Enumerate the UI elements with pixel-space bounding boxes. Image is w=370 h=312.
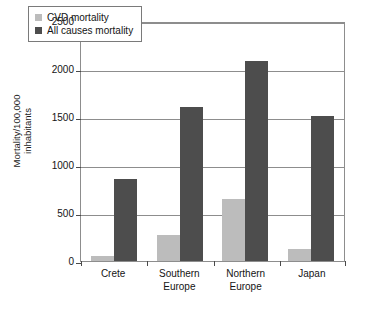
y-axis-tick-label: 1500 <box>14 113 74 123</box>
x-axis-tick <box>81 261 82 266</box>
bar-group <box>278 23 344 261</box>
bar-group <box>81 23 147 261</box>
x-axis-category-label-line: Europe <box>146 281 212 294</box>
bar-cvd <box>222 199 245 261</box>
bar-all-causes <box>114 179 137 261</box>
bar-cvd <box>288 249 311 261</box>
y-axis-tick-label: 0 <box>14 257 74 267</box>
legend-swatch-icon-all-causes <box>35 27 42 34</box>
x-axis-tick <box>280 261 281 266</box>
y-axis-title-line-1: Mortality/100,000 <box>11 71 22 191</box>
y-axis-tick-label: 1000 <box>14 161 74 171</box>
x-axis-tick <box>214 261 215 266</box>
x-axis-category-label-line: Crete <box>80 268 146 281</box>
x-axis-tick <box>147 261 148 266</box>
plot-area <box>80 22 345 262</box>
y-axis-title: Mortality/100,000 inhabitants <box>11 71 33 191</box>
y-axis-tick-label: 2500 <box>14 17 74 27</box>
y-axis-tick-label: 2000 <box>14 65 74 75</box>
x-axis-tick <box>345 261 346 266</box>
x-axis-category-label-line: Europe <box>213 281 279 294</box>
bar-cvd <box>91 256 114 261</box>
bar-chart-figure: Mortality/100,000 inhabitants CreteSouth… <box>0 0 370 312</box>
bar-all-causes <box>311 116 334 261</box>
x-axis-labels: CreteSouthernEuropeNorthernEuropeJapan <box>80 268 345 293</box>
y-axis-tick-label: 500 <box>14 209 74 219</box>
x-axis-category-label: SouthernEurope <box>146 268 212 293</box>
x-axis-category-label-line: Northern <box>213 268 279 281</box>
bar-all-causes <box>245 61 268 261</box>
x-axis-category-label: Crete <box>80 268 146 293</box>
x-axis-category-label-line: Japan <box>279 268 345 281</box>
bar-groups <box>81 23 344 261</box>
bar-all-causes <box>180 107 203 261</box>
bar-group <box>213 23 279 261</box>
bar-group <box>147 23 213 261</box>
x-axis-category-label: Japan <box>279 268 345 293</box>
bar-cvd <box>157 235 180 261</box>
x-axis-category-label: NorthernEurope <box>213 268 279 293</box>
x-axis-category-label-line: Southern <box>146 268 212 281</box>
y-axis-title-line-2: inhabitants <box>22 71 33 191</box>
